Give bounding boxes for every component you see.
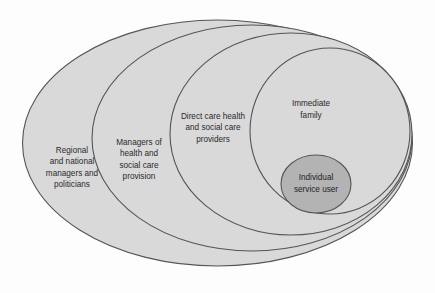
nested-ellipses-diagram: Regionaland nationalmanagers andpolitici… bbox=[0, 0, 435, 293]
diagram-page: Regionaland nationalmanagers andpolitici… bbox=[0, 0, 435, 293]
